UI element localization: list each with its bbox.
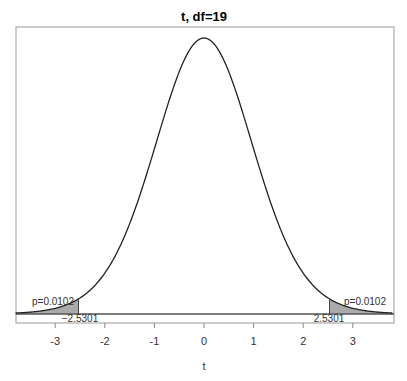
x-axis-label: t xyxy=(202,360,205,372)
x-tick-label: 0 xyxy=(201,335,207,347)
plot-border xyxy=(16,27,394,323)
left-critical-label: −2.5301 xyxy=(62,313,99,324)
right-critical-label: 2.5301 xyxy=(314,313,345,324)
t-distribution-chart: t, df=19 p=0.0102 p=0.0102 −2.5301 2.530… xyxy=(0,0,407,381)
x-tick-label: 2 xyxy=(300,335,306,347)
chart-title: t, df=19 xyxy=(181,9,227,24)
x-tick-label: -2 xyxy=(100,335,110,347)
x-tick-label: 3 xyxy=(350,335,356,347)
x-tick-label: 1 xyxy=(251,335,257,347)
right-p-label: p=0.0102 xyxy=(344,296,386,307)
x-axis-ticks: -3-2-10123 xyxy=(50,323,356,347)
density-curve xyxy=(16,38,393,313)
x-tick-label: -1 xyxy=(150,335,160,347)
left-p-label: p=0.0102 xyxy=(32,296,74,307)
x-tick-label: -3 xyxy=(50,335,60,347)
